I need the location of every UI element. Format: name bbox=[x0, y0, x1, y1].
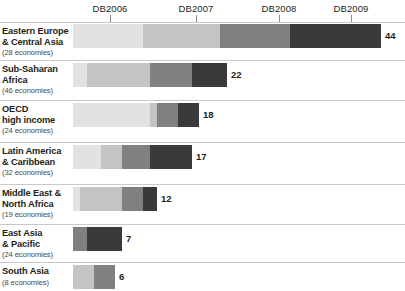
row-economies-count: (24 economies) bbox=[2, 250, 70, 260]
bar-segment-db2006 bbox=[73, 187, 80, 211]
row-divider bbox=[0, 22, 405, 23]
axis-label-db2006: DB2006 bbox=[93, 3, 128, 14]
row-label-middle-east-north-africa: Middle East &North Africa(19 economies) bbox=[2, 188, 70, 220]
bar-segment-db2006 bbox=[73, 103, 150, 127]
bar-segment-db2008 bbox=[73, 227, 87, 251]
row-label-line1: OECD bbox=[2, 104, 70, 115]
bar-segment-db2009 bbox=[87, 227, 122, 251]
bar-segment-db2007 bbox=[150, 103, 157, 127]
row-label-line2: & Pacific bbox=[2, 239, 70, 250]
row-label-line1: South Asia bbox=[2, 266, 70, 277]
axis-label-db2007: DB2007 bbox=[179, 3, 214, 14]
bar-segment-db2006 bbox=[73, 145, 101, 169]
bar-segment-db2009 bbox=[178, 103, 199, 127]
bar-south-asia bbox=[73, 265, 115, 289]
bar-segment-db2008 bbox=[94, 265, 115, 289]
row-label-line1: Sub-Saharan bbox=[2, 64, 70, 75]
axis-tick-db2007 bbox=[196, 15, 197, 22]
row-label-line2: Africa bbox=[2, 75, 70, 86]
row-label-line1: East Asia bbox=[2, 228, 70, 239]
bar-segment-db2009 bbox=[192, 63, 227, 87]
axis-label-db2008: DB2008 bbox=[262, 3, 297, 14]
bar-segment-db2008 bbox=[122, 187, 143, 211]
row-label-east-asia-pacific: East Asia& Pacific(24 economies) bbox=[2, 228, 70, 260]
bar-total-value-latin-america-caribbean: 17 bbox=[196, 145, 207, 169]
bar-segment-db2007 bbox=[101, 145, 122, 169]
row-divider bbox=[0, 60, 405, 61]
row-label-line2: North Africa bbox=[2, 199, 70, 210]
row-divider bbox=[0, 142, 405, 143]
bar-segment-db2006 bbox=[73, 63, 87, 87]
bar-segment-db2008 bbox=[122, 145, 150, 169]
bar-middle-east-north-africa bbox=[73, 187, 157, 211]
row-label-line1: Eastern Europe bbox=[2, 26, 70, 37]
axis-tick-db2009 bbox=[351, 15, 352, 22]
axis-tick-db2008 bbox=[279, 15, 280, 22]
bar-east-asia-pacific bbox=[73, 227, 122, 251]
row-divider bbox=[0, 100, 405, 101]
bar-total-value-sub-saharan-africa: 22 bbox=[231, 63, 242, 87]
row-label-line2: high income bbox=[2, 115, 70, 126]
bar-segment-db2007 bbox=[80, 187, 122, 211]
bar-total-value-east-asia-pacific: 7 bbox=[126, 227, 131, 251]
bar-latin-america-caribbean bbox=[73, 145, 192, 169]
bar-segment-db2007 bbox=[87, 63, 150, 87]
axis-label-db2009: DB2009 bbox=[334, 3, 369, 14]
row-economies-count: (8 economies) bbox=[2, 278, 70, 288]
stacked-bar-chart: DB2006DB2007DB2008DB2009 Eastern Europe&… bbox=[0, 0, 405, 291]
bar-sub-saharan-africa bbox=[73, 63, 227, 87]
bar-segment-db2008 bbox=[220, 24, 290, 48]
row-economies-count: (32 economies) bbox=[2, 168, 70, 178]
row-divider bbox=[0, 224, 405, 225]
bar-total-value-eastern-europe-central-asia: 44 bbox=[385, 24, 396, 48]
bar-segment-db2007 bbox=[143, 24, 220, 48]
bar-total-value-oecd-high-income: 18 bbox=[203, 103, 214, 127]
bar-eastern-europe-central-asia bbox=[73, 24, 381, 48]
bar-segment-db2006 bbox=[73, 24, 143, 48]
bar-segment-db2007 bbox=[73, 265, 94, 289]
row-economies-count: (19 economies) bbox=[2, 210, 70, 220]
row-economies-count: (28 economies) bbox=[2, 48, 70, 58]
row-economies-count: (24 economies) bbox=[2, 126, 70, 136]
axis-tick-db2006 bbox=[110, 15, 111, 22]
row-economies-count: (46 economies) bbox=[2, 86, 70, 96]
row-label-eastern-europe-central-asia: Eastern Europe& Central Asia(28 economie… bbox=[2, 26, 70, 58]
bar-segment-db2009 bbox=[150, 145, 192, 169]
row-label-line1: Middle East & bbox=[2, 188, 70, 199]
bar-oecd-high-income bbox=[73, 103, 199, 127]
bar-segment-db2009 bbox=[290, 24, 381, 48]
row-label-line2: & Central Asia bbox=[2, 37, 70, 48]
bar-total-value-south-asia: 6 bbox=[119, 265, 124, 289]
row-label-line1: Latin America bbox=[2, 146, 70, 157]
row-label-south-asia: South Asia(8 economies) bbox=[2, 266, 70, 288]
row-label-sub-saharan-africa: Sub-SaharanAfrica(46 economies) bbox=[2, 64, 70, 96]
bar-segment-db2008 bbox=[157, 103, 178, 127]
chart-axis: DB2006DB2007DB2008DB2009 bbox=[0, 0, 405, 22]
bar-segment-db2009 bbox=[143, 187, 157, 211]
bar-segment-db2008 bbox=[150, 63, 192, 87]
bar-total-value-middle-east-north-africa: 12 bbox=[161, 187, 172, 211]
row-label-oecd-high-income: OECDhigh income(24 economies) bbox=[2, 104, 70, 136]
row-label-latin-america-caribbean: Latin America& Caribbean(32 economies) bbox=[2, 146, 70, 178]
row-divider bbox=[0, 184, 405, 185]
row-label-line2: & Caribbean bbox=[2, 157, 70, 168]
row-divider bbox=[0, 262, 405, 263]
